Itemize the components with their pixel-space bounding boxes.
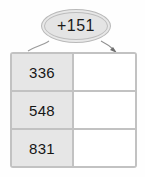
table-row: 548 [12,92,135,130]
table-row: 831 [12,130,135,166]
output-cell[interactable] [74,54,135,90]
output-cell[interactable] [74,130,135,166]
input-cell: 831 [12,130,74,166]
input-cell: 548 [12,92,74,128]
function-table: 336 548 831 [10,52,137,168]
rule-label: +151 [41,9,111,43]
output-cell[interactable] [74,92,135,128]
rule-oval[interactable]: +151 [41,9,111,43]
input-cell: 336 [12,54,74,90]
table-row: 336 [12,54,135,92]
function-table-worksheet: +151 336 548 831 [0,0,145,177]
